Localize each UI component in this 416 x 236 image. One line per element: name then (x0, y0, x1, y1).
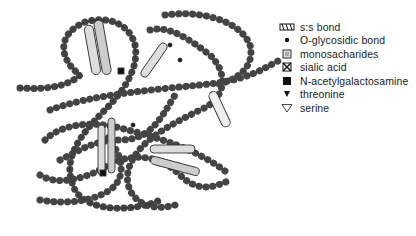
legend-item-o-glycosidic-bond: O-glycosidic bond (278, 34, 416, 48)
ss-bond-icon (278, 21, 296, 33)
filled-square-icon (278, 75, 296, 87)
mucin-structure-diagram (0, 0, 290, 236)
legend-item-sialic-acid: sialic acid (278, 61, 416, 75)
legend-item-threonine: threonine (278, 88, 416, 102)
peptide-chains (20, 14, 280, 208)
hatched-square-icon (278, 48, 296, 60)
filled-triangle-icon (278, 88, 296, 100)
legend-item-n-acetylgalactosamine: N-acetylgalactosamine (278, 74, 416, 88)
open-triangle-icon (278, 102, 296, 114)
legend-item-serine: serine (278, 101, 416, 115)
legend: s:s bond O-glycosidic bond monosacharide… (278, 20, 416, 115)
legend-item-ss-bond: s:s bond (278, 20, 416, 34)
legend-item-monosacharides: monosacharides (278, 47, 416, 61)
dot-icon (278, 34, 296, 46)
cross-square-icon (278, 61, 296, 73)
